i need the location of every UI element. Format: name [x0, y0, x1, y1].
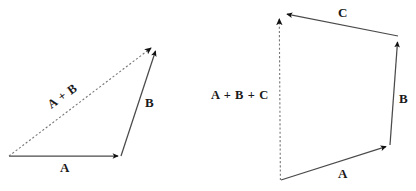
left-vector-b-label: B	[145, 96, 154, 109]
right-vector-sum-label: A + B + C	[211, 89, 269, 102]
right-vector-a-arrow	[281, 147, 386, 180]
right-vector-c-label: C	[338, 6, 348, 19]
left-vector-a-label: A	[60, 161, 70, 174]
right-diagram-group	[279, 14, 398, 180]
left-diagram-group	[9, 48, 156, 156]
left-vector-sum-arrow	[9, 48, 151, 156]
vector-addition-figure: A B A + B A B C A + B + C	[0, 0, 416, 191]
right-vector-b-arrow	[390, 42, 398, 145]
right-vector-a-label: A	[338, 167, 348, 180]
right-vector-sum-arrow	[279, 19, 280, 180]
right-vector-b-label: B	[399, 92, 408, 105]
